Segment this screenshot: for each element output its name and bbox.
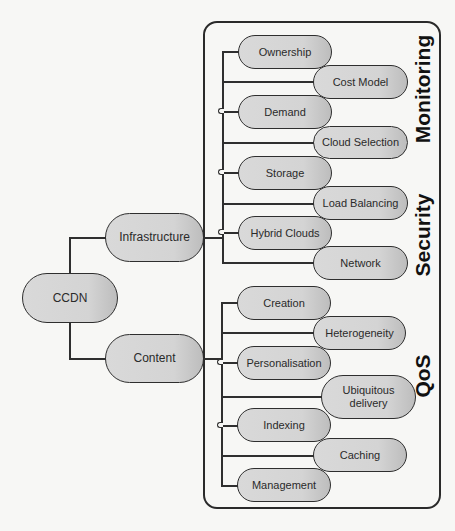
node-demand: Demand: [238, 95, 332, 129]
node-label: Caching: [340, 449, 380, 462]
connector-network: [222, 262, 314, 264]
connector-personalisation: [221, 362, 238, 364]
node-load-balancing: Load Balancing: [313, 186, 408, 220]
connector-cost-model: [222, 81, 314, 83]
node-label: Management: [252, 479, 316, 492]
connector-cloud-selection: [222, 142, 314, 144]
node-label: Storage: [266, 167, 305, 180]
node-ownership: Ownership: [238, 35, 332, 69]
node-infrastructure: Infrastructure: [105, 213, 204, 262]
node-ccdn: CCDN: [22, 273, 118, 323]
node-label: Network: [340, 257, 380, 270]
node-label: Ownership: [259, 46, 312, 59]
node-content: Content: [105, 334, 204, 383]
connector-management: [221, 485, 238, 487]
label-security: Security: [410, 185, 436, 285]
node-label: Content: [133, 352, 175, 365]
node-caching: Caching: [313, 438, 407, 472]
line-hop: [218, 108, 224, 114]
connector-caching: [221, 455, 314, 457]
node-label: Load Balancing: [323, 197, 399, 210]
line-hop: [217, 359, 223, 365]
node-heterogeneity: Heterogeneity: [313, 316, 406, 350]
line-hop: [217, 422, 223, 428]
connector-ubiquitous-delivery: [221, 396, 322, 398]
node-storage: Storage: [238, 156, 332, 190]
line-hop: [218, 229, 224, 235]
content-bus: [221, 302, 223, 486]
line-hop: [218, 169, 224, 175]
root-to-infrastructure-connector: [69, 237, 106, 239]
node-label: CCDN: [53, 292, 88, 305]
node-label: Hybrid Clouds: [250, 227, 319, 240]
connector-load-balancing: [222, 203, 314, 205]
node-hybrid-clouds: Hybrid Clouds: [238, 216, 332, 250]
node-label: Ubiquitous delivery: [336, 384, 401, 410]
connector-indexing: [221, 425, 238, 427]
node-label: Infrastructure: [119, 231, 190, 244]
root-to-content-connector: [69, 358, 106, 360]
connector-creation: [221, 302, 238, 304]
infrastructure-to-bus-connector: [203, 237, 222, 239]
ccdn-taxonomy-diagram: CCDN Infrastructure Content Ownership Co…: [0, 0, 455, 531]
connector-hybrid-clouds: [222, 232, 239, 234]
node-label: Cloud Selection: [322, 136, 399, 149]
node-label: Cost Model: [333, 76, 389, 89]
node-creation: Creation: [237, 286, 331, 320]
node-management: Management: [237, 468, 331, 502]
connector-ownership: [222, 51, 239, 53]
node-label: Personalisation: [246, 357, 321, 370]
connector-storage: [222, 172, 239, 174]
node-ubiquitous-delivery: Ubiquitous delivery: [321, 375, 416, 419]
node-label: Indexing: [263, 419, 305, 432]
node-label: Heterogeneity: [325, 327, 394, 340]
connector-demand: [222, 111, 239, 113]
label-qos: QoS: [410, 346, 436, 406]
label-monitoring: Monitoring: [410, 29, 436, 149]
node-label: Demand: [264, 106, 306, 119]
node-personalisation: Personalisation: [237, 346, 331, 380]
node-network: Network: [313, 246, 408, 280]
connector-heterogeneity: [221, 332, 314, 334]
node-label: Creation: [263, 297, 305, 310]
node-cost-model: Cost Model: [313, 65, 408, 99]
node-cloud-selection: Cloud Selection: [313, 126, 408, 159]
node-indexing: Indexing: [237, 408, 331, 442]
